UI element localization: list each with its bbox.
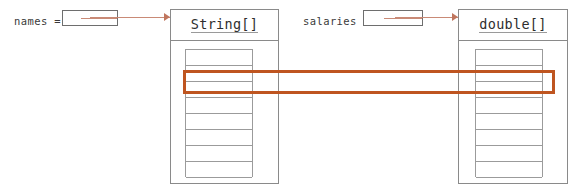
double-array-container: double[] (458, 9, 568, 184)
array-cell (476, 146, 542, 162)
salaries-connector-line (395, 17, 458, 18)
array-cell (186, 130, 252, 146)
array-cell (186, 98, 252, 114)
double-array-cell-stack (475, 49, 543, 177)
salaries-pointer-stub (384, 18, 422, 19)
names-variable-label: names = (14, 16, 61, 27)
array-cell (186, 114, 252, 130)
double-array-header: double[] (459, 10, 567, 41)
array-cell (476, 114, 542, 130)
parallel-index-highlight-rect (183, 70, 555, 94)
string-array-cell-stack (185, 49, 253, 177)
salaries-pointer-box (363, 10, 423, 26)
array-cell (476, 98, 542, 114)
array-diagram: names = salaries = String[] double[] (0, 0, 581, 194)
array-cell (476, 50, 542, 66)
names-pointer-stub (81, 18, 117, 19)
array-cell (186, 50, 252, 66)
string-array-container: String[] (170, 9, 279, 184)
array-cell (186, 146, 252, 162)
array-cell (476, 162, 542, 178)
salaries-variable-label: salaries = (303, 16, 370, 27)
array-cell (476, 130, 542, 146)
array-cell (186, 162, 252, 178)
double-array-type-label: double[] (479, 17, 546, 33)
string-array-type-label: String[] (191, 17, 258, 33)
names-pointer-box (62, 10, 118, 26)
names-connector-line (90, 17, 170, 18)
string-array-header: String[] (171, 10, 278, 41)
